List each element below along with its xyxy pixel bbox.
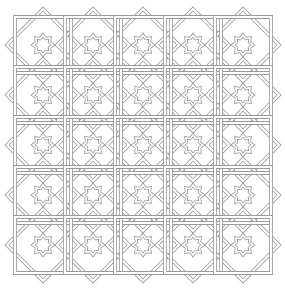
pattern-tiles — [7, 9, 279, 281]
geometric-pattern — [0, 0, 285, 294]
